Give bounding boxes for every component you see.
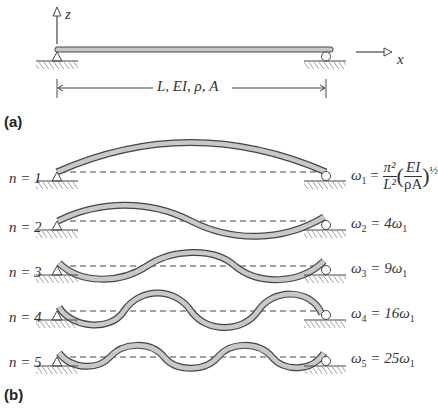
mode-3-frequency: ω3 = 9ω1: [351, 260, 407, 279]
mode-4-frequency: ω4 = 16ω1: [351, 305, 415, 324]
mode-2-label: n = 2: [9, 219, 42, 236]
pin-support-icon: [52, 52, 62, 61]
mode-4-shape: [36, 293, 346, 328]
mode-3-shape: [36, 252, 346, 283]
mode-1-label: n = 1: [9, 170, 42, 187]
dimension-label: L, EI, ρ, A: [157, 78, 218, 95]
beam-diagram: [0, 0, 438, 410]
roller-support-icon: [322, 52, 331, 61]
mode-5-frequency: ω5 = 25ω1: [351, 350, 415, 369]
mode-5-label: n = 5: [9, 354, 42, 371]
panel-b-label: (b): [4, 386, 23, 403]
mode-3-label: n = 3: [9, 264, 42, 281]
x-axis-arrowhead-icon: [384, 48, 392, 56]
z-axis-label: z: [65, 6, 71, 23]
mode-1-frequency: ω1 = π²L²(EIρA)½: [351, 160, 438, 193]
mode-4-label: n = 4: [9, 309, 42, 326]
mode-1-shape: [36, 143, 346, 190]
ground-hatch-left: [36, 62, 78, 69]
ground-hatch-right: [304, 62, 346, 69]
x-axis-label: x: [397, 51, 404, 68]
panel-b-drawing: [36, 143, 346, 375]
z-axis-arrowhead-icon: [53, 7, 61, 16]
panel-a-label: (a): [4, 113, 22, 130]
beam: [55, 47, 333, 52]
mode-2-shape: [36, 205, 346, 238]
mode-5-shape: [36, 345, 346, 374]
mode-2-frequency: ω2 = 4ω1: [351, 215, 407, 234]
